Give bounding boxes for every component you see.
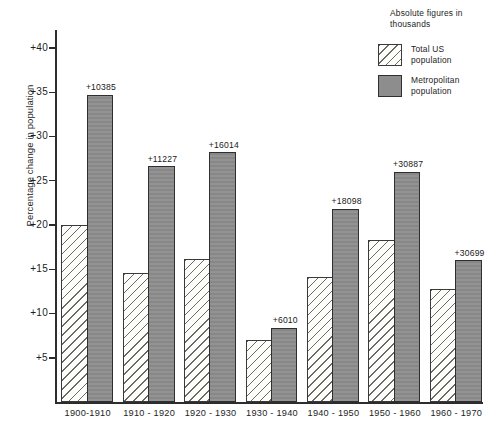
y-axis-tick: +35 bbox=[0, 86, 56, 98]
y-axis-tick-label: +35 bbox=[30, 86, 56, 97]
solid-gray-swatch-icon bbox=[378, 75, 402, 97]
y-axis-tick-label: +40 bbox=[30, 42, 56, 53]
bar-group: +11227 bbox=[123, 30, 176, 402]
x-axis-tick-label: 1940 - 1950 bbox=[308, 408, 360, 418]
bar-value-label: +30699 bbox=[454, 248, 484, 258]
bar-metropolitan-population bbox=[87, 95, 114, 402]
bar-total-population bbox=[184, 259, 211, 402]
bar-total-population bbox=[123, 273, 150, 402]
legend-entry-metropolitan-population: Metropolitan population bbox=[378, 75, 486, 97]
legend-label-line-1: Total US bbox=[411, 44, 452, 55]
bar-group: +10385 bbox=[61, 30, 114, 402]
bar-metropolitan-population bbox=[332, 209, 359, 402]
legend-label-line-2: population bbox=[411, 55, 452, 66]
x-axis-tick-label: 1950 - 1960 bbox=[369, 408, 421, 418]
population-change-bar-chart: Percentage change in population +5+10+15… bbox=[0, 0, 486, 429]
legend-label-line-2: population bbox=[411, 86, 460, 97]
x-axis-tick-label: 1920 - 1930 bbox=[185, 408, 237, 418]
bar-value-label: +11227 bbox=[148, 154, 177, 164]
x-axis-tick-label: 1930 - 1940 bbox=[246, 408, 298, 418]
bar-total-population bbox=[246, 340, 273, 402]
bar-group: +16014 bbox=[184, 30, 237, 402]
legend-title-line-1: Absolute figures bbox=[390, 8, 453, 18]
bar-value-label: +6010 bbox=[273, 315, 298, 325]
bar-metropolitan-population bbox=[271, 328, 298, 402]
bar-metropolitan-population bbox=[455, 260, 482, 402]
legend-title: Absolute figures in thousands bbox=[390, 8, 486, 30]
bar-total-population bbox=[368, 240, 395, 402]
y-axis-tick-label: +15 bbox=[30, 263, 56, 274]
bar-metropolitan-population bbox=[209, 152, 236, 402]
y-axis-tick: +5 bbox=[0, 352, 56, 364]
y-axis-tick: +10 bbox=[0, 307, 56, 319]
y-axis-tick-label: +25 bbox=[30, 175, 56, 186]
bar-total-population bbox=[61, 225, 88, 402]
legend-entry-label: Metropolitan population bbox=[411, 75, 460, 96]
chart-legend: Absolute figures in thousands Total US p… bbox=[378, 8, 486, 106]
y-axis-tick-label: +20 bbox=[30, 219, 56, 230]
bar-group: +18098 bbox=[307, 30, 360, 402]
y-axis-ticks: +5+10+15+20+25+30+35+40 bbox=[0, 0, 56, 429]
bar-metropolitan-population bbox=[148, 166, 175, 402]
x-axis-tick-label: 1900-1910 bbox=[65, 408, 111, 418]
bar-value-label: +10385 bbox=[86, 82, 116, 92]
legend-entry-label: Total US population bbox=[411, 44, 452, 65]
legend-entry-total-population: Total US population bbox=[378, 44, 486, 66]
y-axis-tick: +15 bbox=[0, 263, 56, 275]
y-axis-tick: +30 bbox=[0, 130, 56, 142]
y-axis-tick-label: +30 bbox=[30, 130, 56, 141]
bar-value-label: +30887 bbox=[393, 159, 423, 169]
bar-group: +6010 bbox=[246, 30, 299, 402]
x-axis-labels: 1900-19101910 - 19201920 - 19301930 - 19… bbox=[56, 406, 486, 428]
bar-total-population bbox=[307, 277, 334, 402]
x-axis-baseline bbox=[55, 402, 483, 404]
y-axis-tick: +40 bbox=[0, 42, 56, 54]
y-axis-tick-label: +5 bbox=[36, 352, 56, 363]
y-axis-tick: +20 bbox=[0, 219, 56, 231]
x-axis-tick-label: 1910 - 1920 bbox=[123, 408, 175, 418]
x-axis-tick-label: 1960 - 1970 bbox=[430, 408, 482, 418]
legend-label-line-1: Metropolitan bbox=[411, 75, 460, 86]
bar-value-label: +18098 bbox=[332, 196, 362, 206]
bar-total-population bbox=[430, 289, 457, 402]
bar-value-label: +16014 bbox=[209, 140, 239, 150]
y-axis-tick-label: +10 bbox=[30, 307, 56, 318]
bar-metropolitan-population bbox=[394, 172, 421, 402]
hatched-swatch-icon bbox=[378, 44, 402, 66]
y-axis-tick: +25 bbox=[0, 175, 56, 187]
